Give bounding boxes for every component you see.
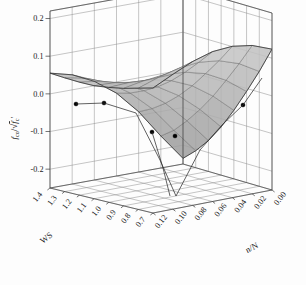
x-tick-label: 1.4 [31,190,44,204]
y-tick-label: 0.02 [252,194,268,211]
data-point-marker [173,134,177,138]
z-tick-label: 0.1 [33,52,43,61]
z-tick-label: -0.1 [31,127,44,136]
y-tick-label: 0.12 [153,213,169,230]
y-axis-title: n/N [244,240,261,255]
z-axis-title: fco/√fc′ [9,116,20,139]
y-tick-label: 0.06 [213,202,229,219]
x-tick-label: 1.0 [90,204,103,218]
x-tick-label: 0.9 [104,208,117,222]
svg-text:fco/√fc′: fco/√fc′ [9,116,20,139]
x-tick-label: 1.1 [75,201,88,215]
x-tick-label: 0.7 [134,215,147,229]
z-tick-label: 0.2 [33,14,43,23]
z-axis-tick-labels: 0.20.10.0-0.1-0.2 [31,14,44,174]
z-tick-label: 0.0 [33,90,43,99]
x-axis-title-text: WS [38,230,54,246]
y-tick-label: 0.04 [232,198,248,215]
x-axis-title: WS [38,230,54,246]
x-tick-label: 1.3 [46,194,59,208]
x-tick-label: 0.8 [119,212,132,226]
y-tick-label: 0.00 [272,190,288,207]
z-tick-label: -0.2 [31,165,44,174]
3d-surface-chart: 0.20.10.0-0.1-0.2 1.41.31.21.11.00.90.80… [0,0,306,285]
y-axis-title-text: n/N [244,240,261,255]
x-axis-tick-labels: 1.41.31.21.11.00.90.80.7 [31,190,147,229]
y-tick-label: 0.08 [193,205,209,222]
y-tick-label: 0.10 [173,209,189,226]
surface-plot-figure: 0.20.10.0-0.1-0.2 1.41.31.21.11.00.90.80… [0,0,306,285]
x-tick-label: 1.2 [60,197,73,211]
